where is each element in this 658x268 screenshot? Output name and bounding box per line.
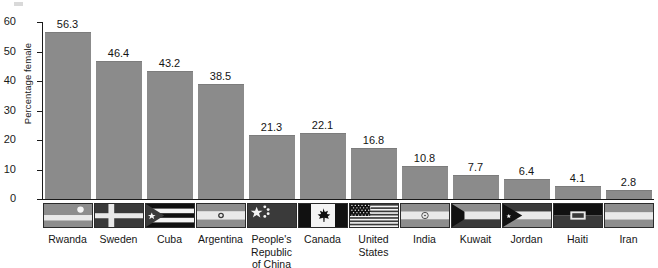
y-axis-tick-label: 20 (0, 133, 16, 145)
category-cell: Jordan (502, 203, 552, 246)
category-cell: India (400, 203, 450, 246)
flag-haiti-icon (553, 203, 603, 228)
y-axis-tick-label: 40 (0, 74, 16, 86)
flag-sweden-icon (94, 203, 144, 228)
category-label: UnitedStates (349, 233, 399, 258)
bar (453, 175, 499, 199)
flag-india-icon (400, 203, 450, 228)
category-axis-row: Rwanda Sweden Cuba Argentina (42, 203, 654, 268)
flag-cuba-icon (145, 203, 195, 228)
bar-value-label: 7.7 (453, 161, 499, 173)
flag-iran-icon (604, 203, 654, 228)
category-label: India (400, 233, 450, 246)
bar-value-label: 38.5 (198, 70, 244, 82)
bar-value-label: 21.3 (249, 121, 295, 133)
bar-value-label: 56.3 (45, 18, 91, 30)
category-label: Cuba (145, 233, 195, 246)
bar-value-label: 16.8 (351, 134, 397, 146)
bar (249, 135, 295, 199)
flag-jordan-icon (502, 203, 552, 228)
bar-value-label: 22.1 (300, 119, 346, 131)
bar-group: 2.8 (606, 22, 652, 199)
bar (555, 186, 601, 199)
bar (96, 61, 142, 199)
bar-value-label: 43.2 (147, 57, 193, 69)
y-axis-tick-label: 50 (0, 45, 16, 57)
category-cell: Kuwait (451, 203, 501, 246)
bar (198, 84, 244, 199)
category-label: Rwanda (43, 233, 93, 246)
category-label: Canada (298, 233, 348, 246)
category-label: Argentina (196, 233, 246, 246)
flag-china-icon (247, 203, 297, 228)
y-axis-tick-label: 60 (0, 15, 16, 27)
category-label: Iran (604, 233, 654, 246)
category-cell: People'sRepublicof China (247, 203, 297, 268)
bar (300, 133, 346, 199)
bar (504, 179, 550, 199)
bar-value-label: 2.8 (606, 176, 652, 188)
y-axis-tick-label: 30 (0, 104, 16, 116)
bar-group: 46.4 (96, 22, 142, 199)
bar-group: 10.8 (402, 22, 448, 199)
bar-value-label: 6.4 (504, 165, 550, 177)
category-label: People'sRepublicof China (247, 233, 297, 268)
bar-value-label: 46.4 (96, 47, 142, 59)
flag-argentina-icon (196, 203, 246, 228)
y-axis-tick-label: 10 (0, 163, 16, 175)
category-cell: Cuba (145, 203, 195, 246)
bar-value-label: 4.1 (555, 172, 601, 184)
bar-group: 56.3 (45, 22, 91, 199)
bar-chart: Percentage female 0102030405060 56.346.4… (0, 0, 658, 268)
flag-kuwait-icon (451, 203, 501, 228)
category-cell: Canada (298, 203, 348, 246)
bar (402, 166, 448, 199)
bar-group: 21.3 (249, 22, 295, 199)
category-cell: UnitedStates (349, 203, 399, 258)
category-label: Sweden (94, 233, 144, 246)
bar (351, 148, 397, 199)
bar-value-label: 10.8 (402, 152, 448, 164)
category-cell: Rwanda (43, 203, 93, 246)
category-label: Haiti (553, 233, 603, 246)
bar (606, 190, 652, 199)
plot-area: 56.346.443.238.521.322.116.810.87.76.44.… (42, 22, 654, 199)
flag-united-states-icon (349, 203, 399, 228)
category-label: Jordan (502, 233, 552, 246)
bar-group: 22.1 (300, 22, 346, 199)
category-cell: Iran (604, 203, 654, 246)
category-cell: Haiti (553, 203, 603, 246)
category-cell: Sweden (94, 203, 144, 246)
flag-canada-icon (298, 203, 348, 228)
bar-group: 7.7 (453, 22, 499, 199)
bar (45, 32, 91, 199)
bar-group: 43.2 (147, 22, 193, 199)
y-axis-tick-label: 0 (0, 192, 16, 204)
category-cell: Argentina (196, 203, 246, 246)
bar-group: 38.5 (198, 22, 244, 199)
bar (147, 71, 193, 199)
bar-group: 6.4 (504, 22, 550, 199)
flag-rwanda-icon (43, 203, 93, 228)
bar-group: 4.1 (555, 22, 601, 199)
category-label: Kuwait (451, 233, 501, 246)
bar-group: 16.8 (351, 22, 397, 199)
y-axis-title: Percentage female (22, 0, 33, 169)
